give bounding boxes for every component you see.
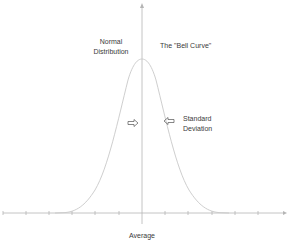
standard-deviation-line1: Standard <box>183 114 233 124</box>
right-arrow-icon <box>128 120 138 127</box>
standard-deviation-label: Standard Deviation <box>183 114 233 134</box>
average-label: Average <box>122 231 162 241</box>
bell-curve-diagram <box>0 0 298 249</box>
standard-deviation-line2: Deviation <box>183 124 233 134</box>
normal-distribution-line2: Distribution <box>86 47 136 57</box>
normal-distribution-label: Normal Distribution <box>86 37 136 57</box>
bell-curve-label: The "Bell Curve" <box>160 41 230 51</box>
y-axis-arrowhead <box>140 3 144 8</box>
x-axis-arrowhead <box>283 211 287 215</box>
normal-distribution-line1: Normal <box>86 37 136 47</box>
